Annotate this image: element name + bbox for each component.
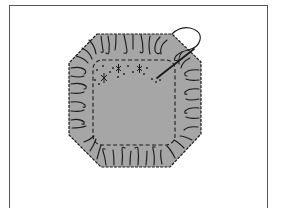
sewing-illustration: [0, 0, 285, 208]
